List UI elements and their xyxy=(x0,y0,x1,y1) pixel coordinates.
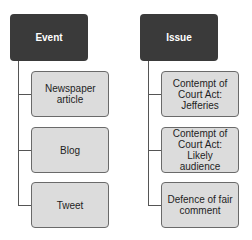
issue-child-label: Contempt of Court Act: Likely audience xyxy=(167,128,233,172)
issue-header-label: Issue xyxy=(166,32,192,43)
issue-branch-line xyxy=(148,150,161,151)
issue-child-box: Contempt of Court Act: Jefferies xyxy=(161,71,239,117)
issue-child-label: Contempt of Court Act: Jefferies xyxy=(169,78,231,111)
issue-branch-line xyxy=(148,205,161,206)
issue-trunk-line xyxy=(148,61,149,206)
issue-child-box: Defence of fair comment xyxy=(161,182,239,228)
issue-header-box: Issue xyxy=(140,14,218,61)
issue-branch-line xyxy=(148,94,161,95)
issue-child-label: Defence of fair comment xyxy=(165,194,235,216)
issue-child-box: Contempt of Court Act: Likely audience xyxy=(161,127,239,173)
issue-column: Issue Contempt of Court Act: Jefferies C… xyxy=(0,0,252,240)
